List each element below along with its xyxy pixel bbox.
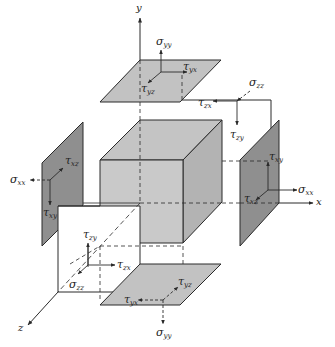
tau-zy-front-label: τzy: [83, 229, 97, 242]
sigma-zz-front-label: σzz: [69, 279, 84, 292]
sigma-zz-back-label: σzz: [249, 77, 264, 90]
sigma-xx-left-label: σxx: [10, 174, 25, 187]
tau-zx-back-label: τzx: [198, 97, 212, 110]
stress-element-diagram: y x z σyy τyx τyz σzz τzx τzy τxy σxx τx…: [0, 0, 335, 347]
tau-zy-back-label: τzy: [230, 129, 244, 142]
tau-xz-right-label: τxz: [244, 193, 258, 206]
tau-xy-right-label: τxy: [269, 151, 283, 164]
tau-yx-top-label: τyx: [183, 61, 197, 74]
top-plane-y-positive: [100, 50, 221, 102]
sigma-yy-bottom-label: σyy: [156, 327, 171, 340]
z-axis-label: z: [18, 323, 23, 333]
x-axis-label: x: [316, 197, 322, 207]
tau-yz-top-label: τyz: [141, 83, 155, 96]
tau-yz-bottom-label: τyz: [178, 276, 192, 289]
tau-xz-left-label: τxz: [65, 155, 79, 168]
z-axis-arrow: [28, 292, 58, 325]
sigma-xx-right-label: σxx: [298, 184, 313, 197]
tau-zx-front-label: τzx: [117, 259, 131, 272]
sigma-yy-top-label: σyy: [156, 36, 171, 49]
diagram-canvas: [0, 0, 335, 347]
tau-xy-left-label: τxy: [43, 207, 57, 220]
y-axis-label: y: [136, 3, 142, 13]
tau-yx-bottom-label: τyx: [124, 294, 138, 307]
